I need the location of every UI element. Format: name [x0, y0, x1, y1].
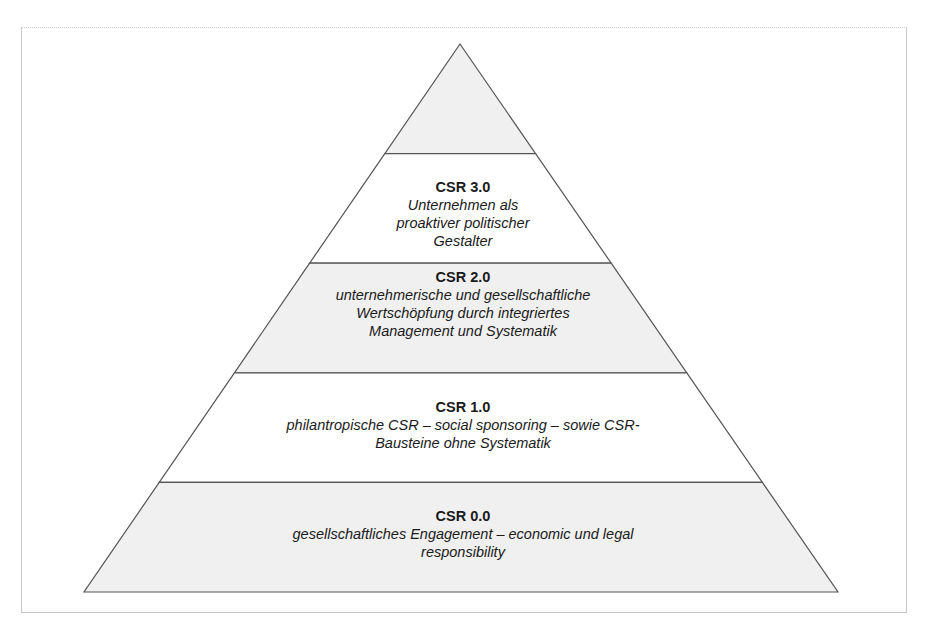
level-description: gesellschaftliches Engagement – economic…: [253, 525, 673, 561]
pyramid-band-top: [385, 44, 536, 154]
level-title: CSR 1.0: [0, 398, 926, 416]
level-title: CSR 3.0: [0, 178, 926, 196]
level-csr-0: CSR 0.0 gesellschaftliches Engagement – …: [0, 507, 926, 561]
level-description: Unternehmen als proaktiver politischer G…: [378, 196, 548, 250]
level-description: unternehmerische und gesellschaftliche W…: [316, 286, 611, 340]
level-title: CSR 2.0: [0, 268, 926, 286]
level-description: philantropische CSR – social sponsoring …: [273, 416, 653, 452]
level-csr-1: CSR 1.0 philantropische CSR – social spo…: [0, 398, 926, 452]
level-csr-3: CSR 3.0 Unternehmen als proaktiver polit…: [0, 178, 926, 250]
level-csr-2: CSR 2.0 unternehmerische und gesellschaf…: [0, 268, 926, 340]
level-title: CSR 0.0: [0, 507, 926, 525]
